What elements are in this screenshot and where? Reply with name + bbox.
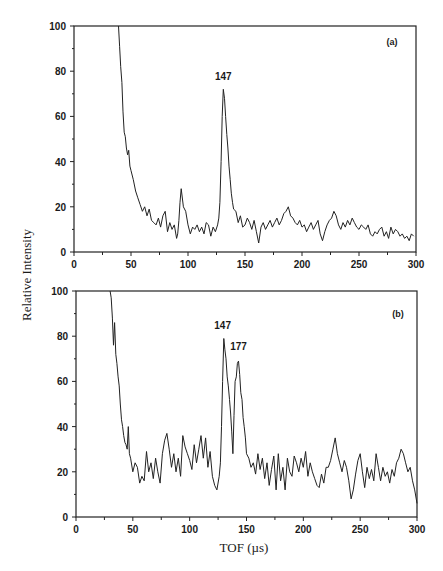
x-tick-label: 200 — [295, 524, 312, 535]
y-tick-label: 80 — [57, 331, 69, 342]
plot-frame-b — [76, 291, 417, 517]
spectrum-line-b — [110, 291, 417, 503]
x-tick-label: 100 — [180, 259, 197, 270]
x-tick-label: 300 — [408, 259, 425, 270]
y-axis-title: Relative Intensity — [19, 228, 34, 321]
x-tick-label: 150 — [237, 259, 254, 270]
x-tick-label: 150 — [238, 524, 255, 535]
y-tick-label: 0 — [60, 247, 66, 258]
y-tick-label: 60 — [57, 376, 69, 387]
axis-ticks-a: 050100150200250300020406080100 — [49, 21, 424, 270]
y-tick-label: 20 — [57, 467, 69, 478]
x-tick-label: 50 — [125, 259, 137, 270]
y-tick-label: 40 — [55, 157, 67, 168]
x-tick-label: 50 — [127, 524, 139, 535]
peak-label-b-147: 147 — [214, 320, 231, 331]
y-tick-label: 0 — [62, 512, 68, 523]
y-tick-label: 20 — [55, 202, 67, 213]
panel-label-a: (a) — [387, 37, 398, 47]
axis-ticks-b: 050100150200250300020406080100 — [51, 286, 425, 535]
y-tick-label: 60 — [55, 111, 67, 122]
x-tick-label: 100 — [181, 524, 198, 535]
y-tick-label: 100 — [49, 21, 66, 32]
spectrum-line-a — [119, 26, 414, 243]
x-tick-label: 200 — [294, 259, 311, 270]
panel-label-b: (b) — [392, 309, 404, 319]
panel-a: 050100150200250300020406080100 147 (a) — [49, 21, 424, 270]
x-tick-label: 250 — [352, 524, 369, 535]
panel-b: 050100150200250300020406080100 147 177 (… — [51, 286, 425, 535]
x-axis-title: TOF (µs) — [220, 540, 269, 555]
x-tick-label: 0 — [71, 259, 77, 270]
y-tick-label: 100 — [51, 286, 68, 297]
x-tick-label: 300 — [409, 524, 426, 535]
y-tick-label: 40 — [57, 422, 69, 433]
x-tick-label: 0 — [73, 524, 79, 535]
peak-label-b-177: 177 — [230, 341, 247, 352]
x-tick-label: 250 — [351, 259, 368, 270]
peak-label-a-147: 147 — [215, 71, 232, 82]
y-tick-label: 80 — [55, 66, 67, 77]
figure: 050100150200250300020406080100 147 (a) 0… — [0, 0, 443, 571]
